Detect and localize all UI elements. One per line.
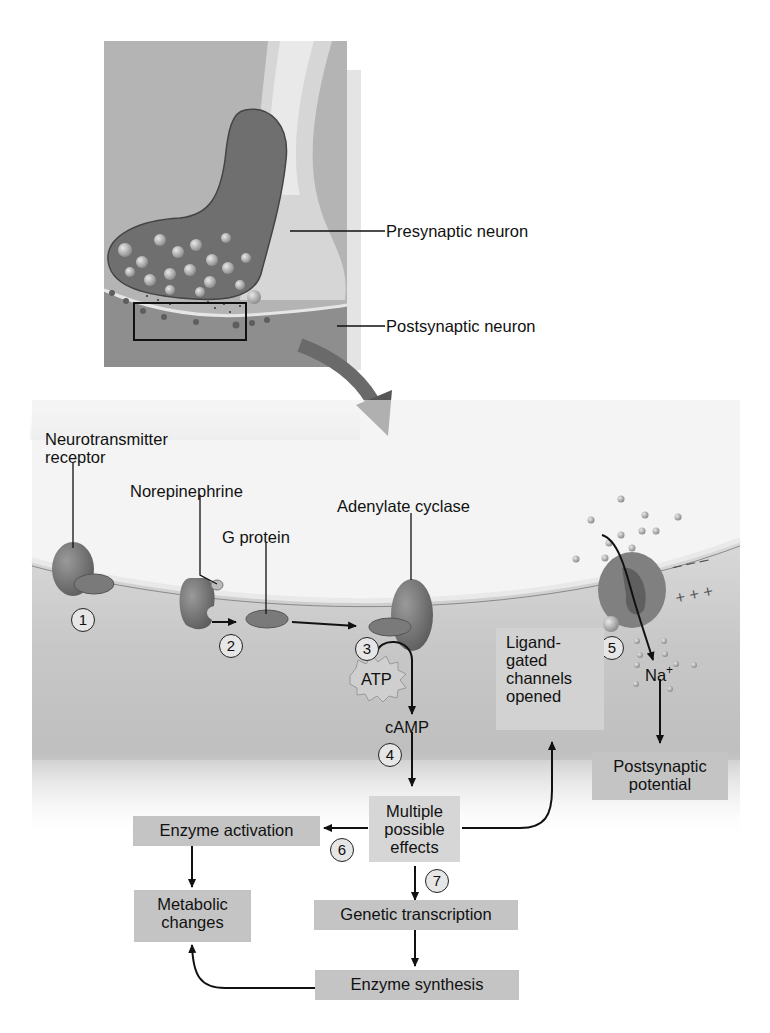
diagram-graphics <box>0 0 770 1033</box>
label-sodium-ion: Na+ <box>645 661 673 684</box>
label-adenylate-cyclase: Adenylate cyclase <box>337 497 470 515</box>
label-presynaptic-neuron: Presynaptic neuron <box>386 222 528 240</box>
postsynaptic-line1: Postsynaptic <box>598 757 722 775</box>
box-multiple-possible-effects: Multiple possible effects <box>369 796 460 862</box>
box-ligand-gated-channels-opened: Ligand- gated channels opened <box>496 628 604 730</box>
metabolic-line2: changes <box>140 913 245 931</box>
box-postsynaptic-potential: Postsynaptic potential <box>592 752 728 800</box>
postsynaptic-line2: potential <box>598 775 722 793</box>
metabolic-line1: Metabolic <box>140 895 245 913</box>
label-neurotransmitter-receptor-line2: receptor <box>45 448 106 466</box>
label-postsynaptic-neuron: Postsynaptic neuron <box>386 317 536 335</box>
multiple-line1: Multiple <box>375 802 454 820</box>
label-neurotransmitter-receptor-line1: Neurotransmitter <box>45 430 168 448</box>
step-3-badge: 3 <box>355 637 379 661</box>
label-norepinephrine: Norepinephrine <box>130 482 243 500</box>
ligand-line2: gated <box>506 651 598 669</box>
step-1-badge: 1 <box>71 608 95 632</box>
ligand-line3: channels <box>506 669 598 687</box>
box-enzyme-activation: Enzyme activation <box>133 816 320 846</box>
step-4-badge: 4 <box>378 743 402 767</box>
ligand-line4: opened <box>506 687 598 705</box>
step-2-badge: 2 <box>219 634 243 658</box>
step-6-badge: 6 <box>330 838 354 862</box>
label-na: Na <box>645 666 666 684</box>
label-g-protein: G protein <box>222 528 290 546</box>
label-na-charge: + <box>666 663 673 677</box>
label-atp: ATP <box>361 670 392 688</box>
label-camp: cAMP <box>385 718 429 736</box>
box-genetic-transcription: Genetic transcription <box>314 900 518 930</box>
step-7-badge: 7 <box>425 869 449 893</box>
g-protein <box>246 610 288 628</box>
ligand-line1: Ligand- <box>506 633 598 651</box>
box-enzyme-synthesis: Enzyme synthesis <box>315 970 519 1000</box>
multiple-line3: effects <box>375 838 454 856</box>
synapse-inset-illustration <box>104 41 392 436</box>
multiple-line2: possible <box>375 820 454 838</box>
box-metabolic-changes: Metabolic changes <box>134 890 251 942</box>
